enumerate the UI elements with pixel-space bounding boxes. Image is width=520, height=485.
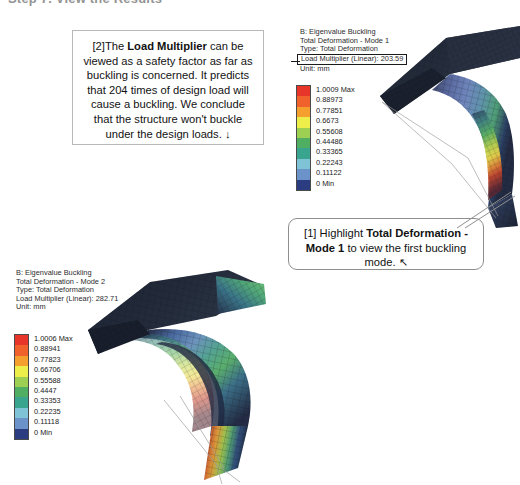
page-title: Step 7. View the Results [8,0,162,6]
legend-value: 1.0009 Max [316,85,355,95]
legend-value: 0.6673 [316,116,355,126]
legend-value: 0.55608 [316,127,355,137]
legend-swatch [15,345,28,355]
legend-swatch [15,418,28,428]
legend-value: 0.4447 [34,386,73,396]
result-info-mode-1: B: Eigenvalue Buckling Total Deformation… [300,28,407,73]
callout-2-post: can be [207,40,244,52]
result-unit-mode-2: Unit: mm [16,303,118,312]
load-multiplier-leader-line [291,61,300,62]
legend-value: 0.88973 [316,95,355,105]
legend-swatch [297,169,310,179]
callout-load-multiplier: [2]The Load Multiplier can be viewed as … [72,30,264,145]
legend-swatch [297,128,310,138]
legend-value: 0.22243 [316,158,355,168]
legend-value: 0 Min [316,179,355,189]
callout-2-bold-term: Load Multiplier [127,40,207,52]
legend-value: 0.33353 [34,396,73,406]
legend-value: 0.88941 [34,344,73,354]
callout-2-index: [2] [92,40,104,52]
legend-value: 0.22235 [34,407,73,417]
up-left-arrow-icon: ↖ [399,256,408,268]
legend-swatch [297,180,310,190]
legend-swatch [15,408,28,418]
callout-1-index: [1] [304,227,316,239]
legend-value: 0.77851 [316,106,355,116]
result-unit-mode-1: Unit: mm [300,65,407,74]
legend-swatch [15,366,28,376]
result-info-mode-2: B: Eigenvalue Buckling Total Deformation… [16,269,118,312]
legend-value: 1.0006 Max [34,334,73,344]
callout-2-pre: The [105,40,127,52]
down-arrow-icon: ↓ [225,128,231,140]
legend-swatch [297,138,310,148]
legend-swatch [297,86,310,96]
color-legend-mode-1: 1.0009 Max 0.88973 0.77851 0.6673 0.5560… [296,85,355,191]
legend-value: 0.55588 [34,376,73,386]
legend-swatch [297,107,310,117]
legend-value: 0 Min [34,428,73,438]
legend-value: 0.11122 [316,168,355,178]
legend-value: 0.11118 [34,417,73,427]
legend-value: 0.77823 [34,355,73,365]
legend-swatch [15,356,28,366]
legend-swatch [15,429,28,439]
result-type-mode-1: Type: Total Deformation [300,45,407,54]
legend-labels-mode-1: 1.0009 Max 0.88973 0.77851 0.6673 0.5560… [316,85,355,191]
legend-swatch [297,148,310,158]
legend-labels-mode-2: 1.0006 Max 0.88941 0.77823 0.66706 0.555… [34,334,73,440]
legend-color-bar-mode-1 [296,85,311,191]
callout-1-pre: Highlight [320,227,367,239]
legend-value: 0.33365 [316,147,355,157]
legend-swatch [15,335,28,345]
legend-swatch [15,377,28,387]
color-legend-mode-2: 1.0006 Max 0.88941 0.77823 0.66706 0.555… [14,334,73,440]
legend-swatch [297,96,310,106]
legend-swatch [15,397,28,407]
callout-1-leader-lines [455,190,517,230]
legend-value: 0.44486 [316,137,355,147]
legend-value: 0.66706 [34,365,73,375]
legend-swatch [15,387,28,397]
legend-swatch [297,117,310,127]
legend-color-bar-mode-2 [14,334,29,440]
legend-swatch [297,159,310,169]
